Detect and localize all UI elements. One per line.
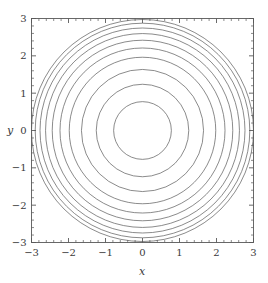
plot-canvas: −3−2−10123 3210−1−2−3 x y — [0, 0, 268, 283]
y-tick-label: 3 — [20, 13, 26, 24]
x-tick-label: 0 — [139, 247, 145, 258]
x-tick-label: 2 — [213, 247, 219, 258]
y-tick-label: −3 — [12, 237, 27, 248]
y-tick-label: 1 — [20, 88, 26, 99]
x-tick-label: 1 — [176, 247, 182, 258]
y-tick-label: 0 — [20, 125, 26, 136]
contour-plot-figure: −3−2−10123 3210−1−2−3 x y — [0, 0, 268, 283]
y-tick-label: −1 — [12, 162, 27, 173]
x-tick-label: −3 — [24, 247, 39, 258]
y-axis-label: y — [6, 124, 14, 137]
x-tick-label: −1 — [98, 247, 113, 258]
x-axis-label: x — [139, 265, 146, 278]
x-tick-label: 3 — [250, 247, 256, 258]
y-tick-label: 2 — [20, 50, 26, 61]
figure-background — [0, 0, 268, 283]
y-tick-label: −2 — [12, 200, 27, 211]
x-tick-label: −2 — [61, 247, 76, 258]
